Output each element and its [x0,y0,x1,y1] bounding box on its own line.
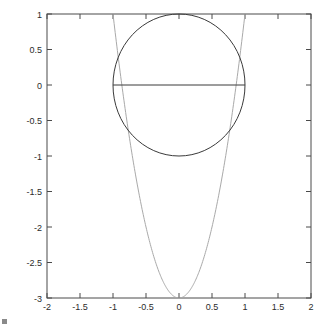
y-tick-label: -2 [34,223,42,233]
plot-canvas: -2 -1.5 -1 -0.5 0 0.5 1 1.5 2 1 0.5 0 -0… [0,0,331,328]
y-tick-label: 0 [37,81,42,91]
y-tick-label: -1 [34,152,42,162]
x-tick-label: 0 [176,302,181,312]
y-tick-label: 1 [37,10,42,20]
y-tick-label: 0.5 [29,45,42,55]
y-axis-tick-labels: 1 0.5 0 -0.5 -1 -1.5 -2 -2.5 -3 [26,10,42,304]
x-tick-label: 1 [242,302,247,312]
x-tick-label: 0.5 [206,302,219,312]
y-tick-label: -3 [34,294,42,304]
figure-container: -2 -1.5 -1 -0.5 0 0.5 1 1.5 2 1 0.5 0 -0… [0,0,331,328]
x-tick-label: 1.5 [272,302,285,312]
y-tick-marks-right [306,14,311,298]
x-tick-label: -2 [43,302,51,312]
x-axis-tick-labels: -2 -1.5 -1 -0.5 0 0.5 1 1.5 2 [43,302,314,312]
y-tick-label: -2.5 [26,258,42,268]
x-tick-marks-top [47,14,311,19]
x-tick-label: -1.5 [72,302,88,312]
data-series-group [113,14,245,298]
y-tick-label: -0.5 [26,116,42,126]
x-tick-marks [47,293,311,298]
y-tick-marks [47,14,52,298]
corner-artifact-mark [2,319,7,324]
x-tick-label: -0.5 [138,302,154,312]
x-tick-label: 2 [308,302,313,312]
x-tick-label: -1 [109,302,117,312]
y-tick-label: -1.5 [26,187,42,197]
